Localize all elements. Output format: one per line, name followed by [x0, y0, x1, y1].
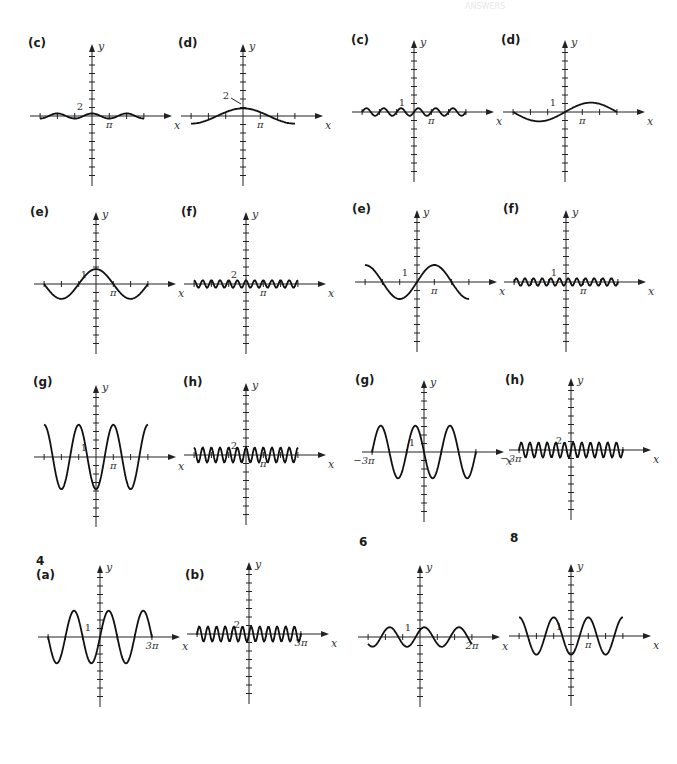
x-axis-arrow-icon: [637, 109, 645, 115]
x-axis-label: x: [182, 640, 189, 653]
x-axis-arrow-icon: [638, 279, 646, 285]
graph-8-right: yx1π: [509, 560, 660, 706]
x-tick-label: 3π: [146, 640, 159, 651]
y-axis-label: y: [576, 374, 584, 387]
graph-g-left: yx1π: [34, 381, 185, 527]
y-axis-label: y: [101, 381, 109, 394]
x-tick-label: π: [427, 115, 435, 126]
x-axis-label: x: [178, 287, 185, 300]
y-tick-label: 2: [223, 90, 229, 101]
y-tick-label: 2: [77, 101, 83, 112]
y-tick-label: 1: [399, 97, 405, 108]
x-axis-label: x: [331, 637, 338, 650]
y-axis-arrow-icon: [93, 212, 99, 220]
x-tick-label: π: [584, 639, 592, 650]
y-axis-label: y: [571, 206, 579, 219]
y-tick-label: 1: [551, 267, 557, 278]
y-axis-label: y: [254, 558, 262, 571]
x-axis-arrow-icon: [168, 454, 176, 460]
x-tick-label: −3π: [353, 455, 375, 466]
x-axis-label: x: [502, 640, 509, 653]
x-tick-label: π: [579, 285, 587, 296]
x-axis-label: x: [499, 285, 506, 298]
graph-a-left: yx13π: [38, 561, 189, 707]
y-axis-arrow-icon: [240, 44, 246, 52]
graph-d-left: yx2π: [181, 40, 332, 186]
y-axis-arrow-icon: [243, 383, 249, 391]
graph-c-right: yx1π: [352, 36, 503, 182]
graph-b-left: yx23π: [187, 558, 338, 704]
x-axis-arrow-icon: [172, 634, 180, 640]
graph-h-left: yx2π: [184, 379, 335, 525]
y-axis-label: y: [419, 36, 427, 49]
y-tick-label: 1: [402, 267, 408, 278]
y-axis-label: y: [570, 36, 578, 49]
x-axis-label: x: [325, 119, 332, 132]
x-axis-arrow-icon: [643, 633, 651, 639]
y-axis-arrow-icon: [246, 562, 252, 570]
y-axis-label: y: [422, 206, 430, 219]
x-axis-label: x: [328, 458, 335, 471]
y-axis-arrow-icon: [568, 378, 574, 386]
x-tick-label: π: [105, 119, 113, 130]
y-axis-label: y: [576, 560, 584, 573]
graphs-canvas: yx2πyx2πyx1πyx1πyx1πyx2πyx1πyx1πyx1πyx2π…: [0, 0, 677, 764]
x-axis-arrow-icon: [318, 452, 326, 458]
y-axis-label: y: [429, 376, 437, 389]
y-axis-arrow-icon: [93, 385, 99, 393]
y-axis-arrow-icon: [243, 212, 249, 220]
graph-h-right: yx2−3π: [500, 374, 660, 520]
x-axis-arrow-icon: [492, 634, 500, 640]
x-axis-arrow-icon: [321, 631, 329, 637]
y-tick-label: 2: [231, 269, 237, 280]
y-axis-arrow-icon: [89, 44, 95, 52]
y-axis-arrow-icon: [563, 210, 569, 218]
x-tick-label: 2π: [465, 640, 479, 651]
x-tick-label: π: [430, 285, 438, 296]
x-axis-arrow-icon: [643, 447, 651, 453]
graph-e-right: yx1π: [355, 206, 506, 352]
x-tick-label: 3π: [295, 637, 308, 648]
y-tick-label: 1: [550, 97, 556, 108]
x-axis-label: x: [653, 453, 660, 466]
graph-c-left: yx2π: [30, 40, 181, 186]
y-axis-arrow-icon: [414, 210, 420, 218]
x-axis-label: x: [174, 119, 181, 132]
y-axis-label: y: [251, 379, 259, 392]
x-axis-arrow-icon: [315, 113, 323, 119]
y-axis-arrow-icon: [417, 565, 423, 573]
graph-e-left: yx1π: [34, 208, 185, 354]
x-axis-arrow-icon: [164, 113, 172, 119]
y-axis-label: y: [425, 561, 433, 574]
x-tick-label: −3π: [500, 453, 522, 464]
x-axis-label: x: [328, 287, 335, 300]
x-tick-label: π: [259, 287, 267, 298]
graph-6-right: yx12π: [358, 561, 509, 707]
y-tick-label: 1: [85, 622, 91, 633]
y-axis-label: y: [105, 561, 113, 574]
x-axis-arrow-icon: [489, 279, 497, 285]
x-axis-label: x: [653, 639, 660, 652]
x-axis-label: x: [178, 460, 185, 473]
y-axis-arrow-icon: [97, 565, 103, 573]
y-axis-arrow-icon: [421, 380, 427, 388]
y-axis-label: y: [248, 40, 256, 53]
x-axis-label: x: [648, 285, 655, 298]
y-axis-label: y: [251, 208, 259, 221]
x-tick-label: π: [578, 115, 586, 126]
x-tick-label: π: [256, 119, 264, 130]
graph-d-right: yx1π: [503, 36, 654, 182]
graph-f-left: yx2π: [184, 208, 335, 354]
x-tick-label: π: [109, 460, 117, 471]
x-axis-arrow-icon: [318, 281, 326, 287]
graph-f-right: yx1π: [504, 206, 655, 352]
y-axis-arrow-icon: [411, 40, 417, 48]
x-axis-arrow-icon: [486, 109, 494, 115]
y-axis-label: y: [97, 40, 105, 53]
x-axis-label: x: [496, 115, 503, 128]
y-axis-arrow-icon: [568, 564, 574, 572]
y-axis-label: y: [101, 208, 109, 221]
x-axis-label: x: [647, 115, 654, 128]
graph-g-right: yx1−3π: [353, 376, 513, 522]
y-tick-label: 1: [405, 622, 411, 633]
